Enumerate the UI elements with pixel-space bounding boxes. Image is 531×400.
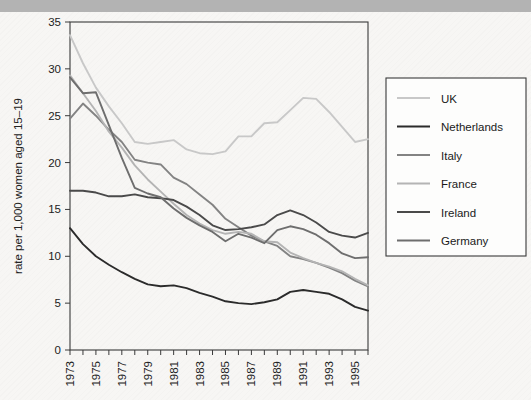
y-tick-label: 5 (55, 297, 61, 309)
series-line-ireland (70, 191, 368, 238)
x-tick-label: 1979 (142, 361, 154, 387)
x-tick-label: 1989 (271, 361, 283, 387)
x-tick-label: 1983 (194, 361, 206, 387)
y-tick-label: 15 (48, 203, 61, 215)
series-line-netherlands (70, 228, 368, 310)
y-tick-label: 30 (48, 63, 61, 75)
legend-label-uk: UK (441, 93, 457, 105)
y-tick-label: 0 (55, 344, 61, 356)
y-tick-label: 10 (48, 250, 61, 262)
x-tick-label: 1993 (323, 361, 335, 387)
y-tick-label: 20 (48, 157, 61, 169)
x-tick-label: 1973 (64, 361, 76, 387)
legend-box (386, 78, 526, 256)
line-chart: 05101520253035rate per 1,000 women aged … (0, 0, 531, 400)
legend-label-germany: Germany (441, 235, 489, 247)
x-tick-label: 1975 (90, 361, 102, 387)
x-tick-label: 1995 (349, 361, 361, 387)
series-line-italy (70, 104, 368, 287)
x-tick-label: 1977 (116, 361, 128, 387)
legend-label-france: France (441, 178, 477, 190)
x-tick-label: 1991 (297, 361, 309, 387)
y-axis-title: rate per 1,000 women aged 15–19 (12, 98, 24, 274)
y-tick-label: 35 (48, 16, 61, 28)
y-tick-label: 25 (48, 110, 61, 122)
legend-label-italy: Italy (441, 150, 462, 162)
x-tick-label: 1985 (219, 361, 231, 387)
chart-figure: 05101520253035rate per 1,000 women aged … (0, 0, 531, 400)
legend-label-netherlands: Netherlands (441, 121, 503, 133)
x-tick-label: 1981 (168, 361, 180, 387)
legend-label-ireland: Ireland (441, 207, 476, 219)
plot-border (70, 22, 368, 350)
x-tick-label: 1987 (245, 361, 257, 387)
